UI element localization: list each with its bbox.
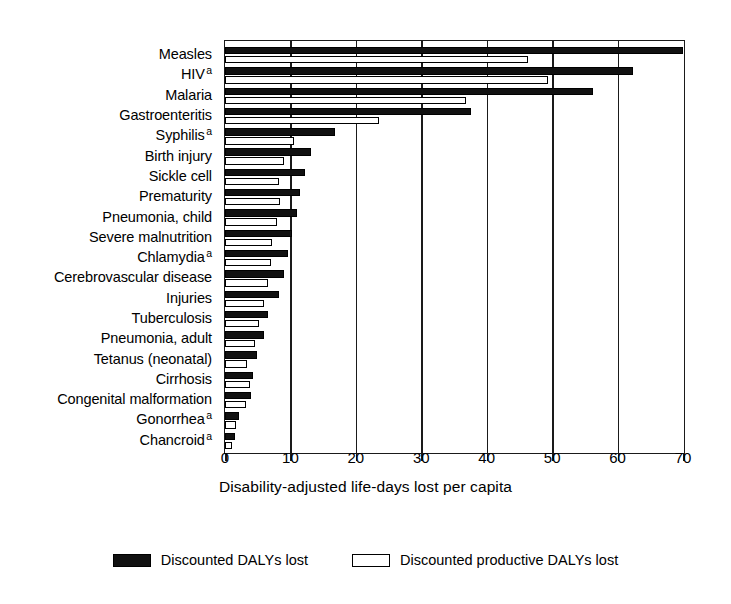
bar-row [225, 349, 684, 369]
bar-discounted-productive-dalys [225, 421, 236, 428]
chart-legend: Discounted DALYs lostDiscounted producti… [0, 552, 731, 568]
bar-discounted-productive-dalys [225, 381, 250, 388]
bar-discounted-productive-dalys [225, 218, 277, 225]
category-label: Pneumonia, adult [0, 328, 218, 348]
category-label: Syphilisa [0, 125, 218, 145]
category-label: Congenital malformation [0, 389, 218, 409]
legend-swatch-outlined-white [352, 554, 390, 567]
category-label: Malaria [0, 85, 218, 105]
category-label-text: Pneumonia, adult [101, 330, 212, 346]
bar-row [225, 86, 684, 106]
bar-row [225, 167, 684, 187]
chart-figure: MeaslesHIVaMalariaGastroenteritisSyphili… [0, 0, 731, 604]
category-label: Tuberculosis [0, 308, 218, 328]
legend-label: Discounted DALYs lost [161, 552, 308, 568]
bar-discounted-productive-dalys [225, 320, 259, 327]
x-tick-label: 40 [478, 449, 495, 466]
category-label: Tetanus (neonatal) [0, 348, 218, 368]
bar-row [225, 228, 684, 248]
bar-discounted-productive-dalys [225, 157, 284, 164]
bar-discounted-dalys [225, 412, 239, 419]
category-label-text: Tuberculosis [132, 310, 212, 326]
x-tick-label: 70 [675, 449, 692, 466]
bar-discounted-productive-dalys [225, 117, 379, 124]
category-label: Gastroenteritis [0, 105, 218, 125]
bar-discounted-dalys [225, 433, 235, 440]
category-label-text: Syphilis [156, 127, 205, 143]
bar-discounted-productive-dalys [225, 97, 466, 104]
bar-discounted-dalys [225, 189, 300, 196]
legend-label: Discounted productive DALYs lost [400, 552, 618, 568]
bar-discounted-dalys [225, 392, 251, 399]
bar-discounted-dalys [225, 250, 288, 257]
bar-discounted-dalys [225, 47, 683, 54]
category-label: Birth injury [0, 145, 218, 165]
bar-row [225, 248, 684, 268]
category-label-text: Birth injury [145, 148, 212, 164]
bar-row [225, 410, 684, 430]
bar-discounted-productive-dalys [225, 239, 272, 246]
bar-row [225, 207, 684, 227]
category-label-text: Congenital malformation [57, 391, 212, 407]
bar-discounted-productive-dalys [225, 56, 528, 63]
bar-discounted-dalys [225, 230, 292, 237]
bar-row [225, 146, 684, 166]
bar-row [225, 329, 684, 349]
category-label: Cirrhosis [0, 369, 218, 389]
bar-discounted-dalys [225, 169, 305, 176]
legend-item: Discounted productive DALYs lost [352, 552, 618, 568]
bar-discounted-productive-dalys [225, 178, 279, 185]
x-tick-label: 30 [413, 449, 430, 466]
bar-discounted-productive-dalys [225, 340, 255, 347]
legend-swatch-filled-black [113, 554, 151, 567]
bar-discounted-productive-dalys [225, 360, 247, 367]
bar-discounted-dalys [225, 291, 279, 298]
bar-row [225, 268, 684, 288]
bar-row [225, 431, 684, 451]
bar-discounted-productive-dalys [225, 442, 232, 449]
bar-discounted-productive-dalys [225, 76, 548, 83]
bar-discounted-dalys [225, 148, 311, 155]
x-tick-label: 60 [609, 449, 626, 466]
y-axis-category-labels: MeaslesHIVaMalariaGastroenteritisSyphili… [0, 40, 218, 454]
x-tick-label: 50 [544, 449, 561, 466]
category-label-text: Gonorrhea [136, 411, 204, 427]
category-label-text: Chancroid [140, 432, 205, 448]
x-tick-label: 0 [221, 449, 229, 466]
category-label: Prematurity [0, 186, 218, 206]
legend-item: Discounted DALYs lost [113, 552, 308, 568]
category-label-text: HIV [181, 66, 205, 82]
category-label-text: Measles [159, 46, 212, 62]
bar-discounted-productive-dalys [225, 259, 271, 266]
category-label: Injuries [0, 288, 218, 308]
plot-area [224, 40, 685, 454]
category-label: Chancroida [0, 430, 218, 450]
category-label-text: Tetanus (neonatal) [94, 351, 212, 367]
bar-row [225, 187, 684, 207]
category-label-text: Cirrhosis [156, 371, 212, 387]
bar-discounted-dalys [225, 372, 253, 379]
bar-discounted-dalys [225, 67, 633, 74]
category-label: HIVa [0, 64, 218, 84]
category-label-text: Pneumonia, child [102, 209, 212, 225]
bar-row [225, 45, 684, 65]
bar-discounted-dalys [225, 209, 297, 216]
x-axis-title: Disability-adjusted life-days lost per c… [0, 478, 731, 496]
bar-row [225, 106, 684, 126]
bar-discounted-productive-dalys [225, 300, 264, 307]
bar-discounted-productive-dalys [225, 198, 280, 205]
bar-discounted-dalys [225, 331, 264, 338]
bar-row [225, 370, 684, 390]
category-label: Sickle cell [0, 166, 218, 186]
category-label: Pneumonia, child [0, 206, 218, 226]
bar-row [225, 390, 684, 410]
x-tick-label: 20 [348, 449, 365, 466]
category-label-text: Sickle cell [149, 168, 212, 184]
bar-discounted-dalys [225, 270, 284, 277]
category-label-text: Injuries [166, 290, 212, 306]
bar-discounted-dalys [225, 108, 471, 115]
category-label: Cerebrovascular disease [0, 267, 218, 287]
bar-rows [225, 41, 684, 453]
bar-discounted-productive-dalys [225, 401, 246, 408]
bar-discounted-dalys [225, 88, 593, 95]
